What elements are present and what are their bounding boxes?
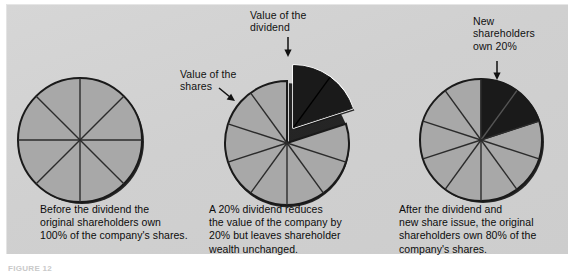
pie-2-dividend-wedge-fill: [294, 66, 353, 128]
callout-value-of-shares: Value of the shares: [180, 68, 236, 93]
caption-pie-1: Before the dividend the original shareho…: [40, 203, 230, 243]
pie-1-slice-dividers: [18, 78, 142, 202]
caption-pie-3: After the dividend and new share issue, …: [399, 203, 574, 256]
caption-pie-2: A 20% dividend reduces the value of the …: [209, 203, 399, 256]
arrow-dividend-icon: [284, 37, 291, 57]
pie-chart-2: [225, 66, 354, 208]
pie-2-dividend-wedge-group: [294, 66, 355, 130]
figure-number-label: FIGURE 12: [8, 264, 52, 273]
callout-value-of-dividend: Value of the dividend: [250, 9, 306, 34]
arrow-new-shareholders-icon: [493, 61, 500, 80]
figure-container: Value of the dividend Value of the share…: [0, 0, 574, 277]
callout-new-shareholders: New shareholders own 20%: [473, 15, 535, 52]
pie-chart-1: [18, 78, 144, 204]
pie-chart-3: [420, 79, 544, 203]
